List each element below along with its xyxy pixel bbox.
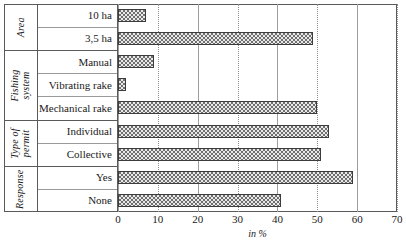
x-tick-label-60: 60 xyxy=(352,214,363,225)
x-tick-label-70: 70 xyxy=(392,214,403,225)
bar-row xyxy=(118,143,397,166)
x-axis-title: in % xyxy=(118,229,397,239)
bar-none xyxy=(118,194,281,207)
category-list-type-of-permit: Individual Collective xyxy=(38,121,117,166)
bar-3-5-ha xyxy=(118,32,313,45)
category-list-fishing-system: Manual Vibrating rake Mechanical rake xyxy=(38,51,117,119)
group-title-area-label: Area xyxy=(15,17,26,37)
bar-row xyxy=(118,120,397,143)
category-group-response: Response Yes None xyxy=(4,166,117,212)
bar-row xyxy=(118,4,397,27)
x-tick-label-20: 20 xyxy=(192,214,203,225)
category-label-yes: Yes xyxy=(38,167,117,189)
bar-series xyxy=(118,4,397,212)
x-tick-label-40: 40 xyxy=(272,214,283,225)
category-group-fishing-system: Fishing system Manual Vibrating rake Mec… xyxy=(4,50,117,119)
group-title-type-of-permit: Type of permit xyxy=(4,121,38,166)
group-title-fishing-system-label: Fishing system xyxy=(10,69,31,102)
category-list-area: 10 ha 3,5 ha xyxy=(38,4,117,50)
category-group-area: Area 10 ha 3,5 ha xyxy=(4,4,117,50)
category-list-response: Yes None xyxy=(38,167,117,212)
x-axis: 010203040506070 in % xyxy=(118,212,397,243)
bar-mechanical-rake xyxy=(118,101,317,114)
category-label-collective: Collective xyxy=(38,143,117,166)
bar-individual xyxy=(118,125,329,138)
group-title-fishing-system: Fishing system xyxy=(4,51,38,119)
bar-vibrating-rake xyxy=(118,78,126,91)
x-tick-label-30: 30 xyxy=(232,214,243,225)
group-title-response-label: Response xyxy=(15,170,26,209)
category-label-vibrating-rake: Vibrating rake xyxy=(38,73,117,96)
x-tick-label-10: 10 xyxy=(152,214,163,225)
category-group-type-of-permit: Type of permit Individual Collective xyxy=(4,120,117,166)
bar-row xyxy=(118,27,397,50)
category-label-mechanical-rake: Mechanical rake xyxy=(38,96,117,119)
gridline-70 xyxy=(397,4,398,212)
bar-collective xyxy=(118,148,321,161)
bar-row xyxy=(118,73,397,96)
x-tick-label-50: 50 xyxy=(312,214,323,225)
category-label-none: None xyxy=(38,189,117,212)
bar-row xyxy=(118,96,397,119)
bar-manual xyxy=(118,55,154,68)
bar-row xyxy=(118,50,397,73)
bar-10-ha xyxy=(118,9,146,22)
category-label-manual: Manual xyxy=(38,51,117,73)
bar-yes xyxy=(118,171,353,184)
group-title-response: Response xyxy=(4,167,38,212)
bar-chart: Area 10 ha 3,5 ha Fishing system Manual … xyxy=(0,0,406,243)
category-label-individual: Individual xyxy=(38,121,117,143)
category-label-panel: Area 10 ha 3,5 ha Fishing system Manual … xyxy=(4,4,118,212)
category-label-3-5-ha: 3,5 ha xyxy=(38,27,117,51)
plot-area xyxy=(118,4,397,212)
bar-row xyxy=(118,189,397,212)
bar-row xyxy=(118,166,397,189)
group-title-area: Area xyxy=(4,4,38,50)
group-title-type-of-permit-label: Type of permit xyxy=(10,127,31,160)
category-label-10-ha: 10 ha xyxy=(38,4,117,27)
x-tick-label-0: 0 xyxy=(115,214,121,225)
